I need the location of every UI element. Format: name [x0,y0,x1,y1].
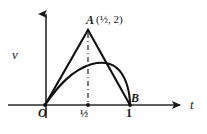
t-axis-label: t [190,98,194,111]
endpoint-label-B: B [131,92,139,104]
origin-label: O [38,107,47,119]
v-axis-label: v [12,48,18,61]
x-tick-label-half: ½ [80,108,88,119]
x-tick-label-one: 1 [126,107,132,119]
velocity-time-figure: v t O A (½, 2) B ½ 1 [0,0,207,134]
apex-coordinates-label: (½, 2) [96,14,123,25]
apex-label-A: A [86,14,94,26]
